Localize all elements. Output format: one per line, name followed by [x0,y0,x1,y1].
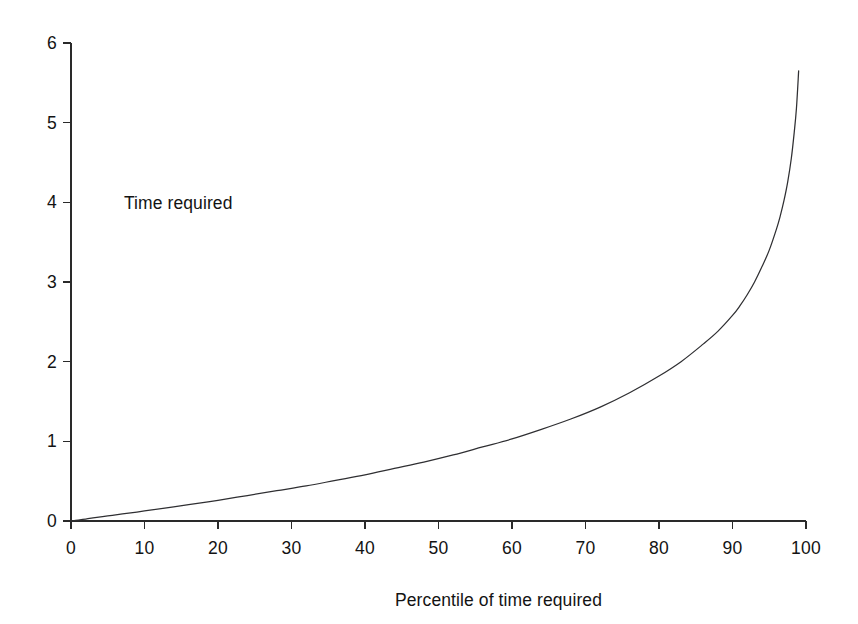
data-series-group [71,71,799,521]
y-tick-label: 5 [47,112,57,133]
plot-area [0,0,858,624]
series-annotation-label: Time required [124,193,233,214]
axes-group [63,43,806,529]
y-axis-ticks [63,43,71,521]
x-tick-label: 50 [429,538,449,559]
y-tick-label: 3 [47,272,57,293]
x-tick-label: 10 [135,538,155,559]
x-tick-label: 70 [576,538,596,559]
y-tick-label: 4 [47,192,57,213]
y-tick-label: 1 [47,431,57,452]
x-tick-label: 60 [502,538,522,559]
chart-figure: 0102030405060708090100 0123456 Time requ… [0,0,858,624]
x-tick-label: 80 [649,538,669,559]
x-tick-label: 30 [282,538,302,559]
y-tick-label: 2 [47,351,57,372]
x-tick-label: 0 [66,538,76,559]
x-axis-title: Percentile of time required [395,590,602,611]
x-tick-label: 20 [208,538,228,559]
y-tick-label: 6 [47,33,57,54]
line-series-time-required [71,71,799,521]
y-tick-label: 0 [47,511,57,532]
x-tick-label: 100 [791,538,821,559]
x-tick-label: 90 [723,538,743,559]
x-axis-ticks [71,521,806,529]
x-tick-label: 40 [355,538,375,559]
